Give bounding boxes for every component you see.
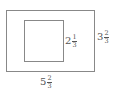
outer-width-fraction: 2 3 (47, 75, 52, 89)
outer-width-whole: 5 (40, 77, 46, 87)
outer-width-denominator: 3 (47, 83, 52, 90)
inner-side-fraction: 1 3 (72, 34, 77, 48)
outer-width-label: 5 2 3 (40, 75, 52, 89)
outer-height-denominator: 3 (104, 38, 109, 45)
inner-square (24, 20, 64, 62)
inner-side-whole: 2 (65, 36, 71, 46)
outer-height-fraction: 2 3 (104, 30, 109, 44)
inner-side-label: 2 1 3 (65, 34, 77, 48)
inner-side-denominator: 3 (72, 42, 77, 49)
outer-height-whole: 3 (97, 32, 103, 42)
outer-height-label: 3 2 3 (97, 30, 109, 44)
